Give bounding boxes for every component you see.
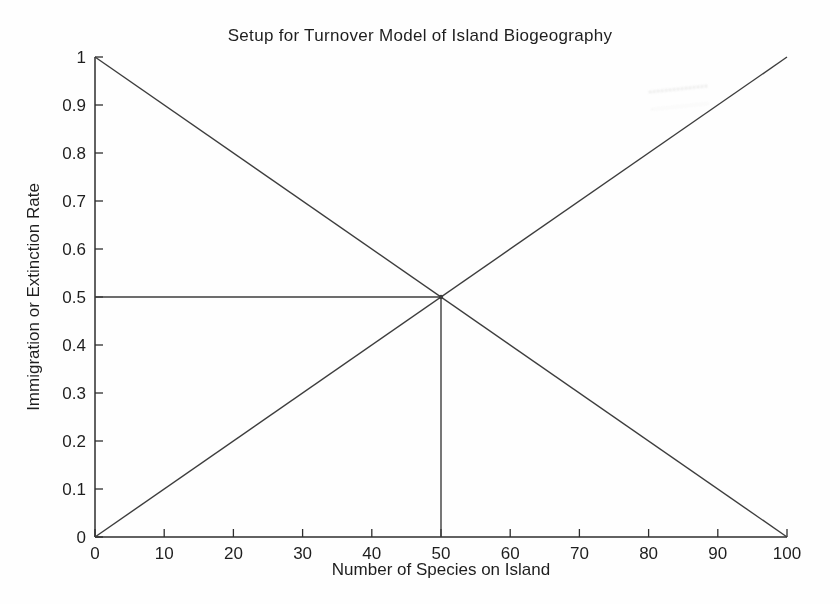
y-tick-label: 0.4 <box>62 336 86 355</box>
y-tick-label: 0.5 <box>62 288 86 307</box>
y-tick-label: 0.7 <box>62 192 86 211</box>
y-tick-label: 0.9 <box>62 96 86 115</box>
plot-area: 010203040506070809010000.10.20.30.40.50.… <box>0 0 840 604</box>
y-tick-label: 0 <box>77 528 86 547</box>
y-tick-label: 0.6 <box>62 240 86 259</box>
equilibrium-point <box>439 295 443 299</box>
y-tick-label: 0.2 <box>62 432 86 451</box>
y-tick-label: 0.1 <box>62 480 86 499</box>
y-tick-label: 0.8 <box>62 144 86 163</box>
y-tick-label: 0.3 <box>62 384 86 403</box>
figure: Setup for Turnover Model of Island Bioge… <box>0 0 840 604</box>
x-axis-label: Number of Species on Island <box>95 560 787 580</box>
y-tick-label: 1 <box>77 48 86 67</box>
